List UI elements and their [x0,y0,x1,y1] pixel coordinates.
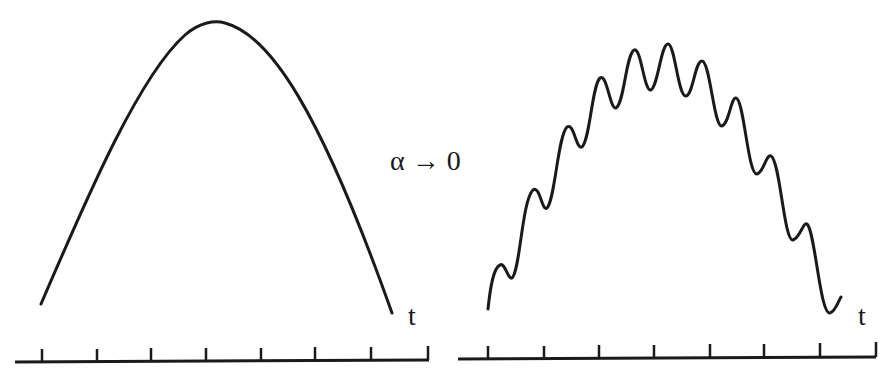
alpha-to-zero-label: α → 0 [390,147,461,175]
right-time-axis [458,342,876,359]
oscillating-arch-curve [488,44,841,313]
left-t-axis-label: t [408,302,416,330]
right-t-axis-label: t [858,302,866,330]
left-time-axis [15,346,429,362]
diagram-canvas [0,0,892,384]
smooth-arch-curve [41,22,392,313]
